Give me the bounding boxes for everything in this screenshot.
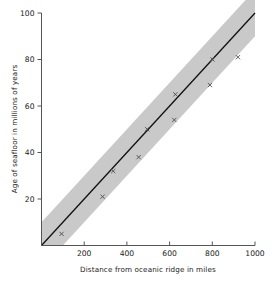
x-tick-label: 200 <box>77 249 92 258</box>
y-tick-label: 100 <box>20 9 35 18</box>
x-tick-label: 1000 <box>245 249 264 258</box>
confidence-band <box>42 0 256 269</box>
x-axis-tick-labels: 2004006008001000 <box>77 249 265 258</box>
y-axis-title: Age of seafloor in millions of years <box>10 65 19 194</box>
x-axis-ticks <box>84 242 255 246</box>
data-point <box>236 55 240 59</box>
y-axis-tick-labels: 20406080100 <box>20 9 35 204</box>
y-tick-label: 20 <box>25 195 35 204</box>
y-tick-label: 60 <box>25 102 35 111</box>
plot-area: 2004006008001000 20406080100 Distance fr… <box>0 0 277 282</box>
x-tick-label: 600 <box>162 249 177 258</box>
x-tick-label: 400 <box>120 249 135 258</box>
y-tick-label: 80 <box>25 55 35 64</box>
x-axis-title: Distance from oceanic ridge in miles <box>80 265 216 274</box>
y-tick-label: 40 <box>25 148 35 157</box>
y-axis-ticks <box>38 13 42 199</box>
best-fit-line <box>42 13 256 246</box>
seafloor-age-scatter-chart: 2004006008001000 20406080100 Distance fr… <box>0 0 277 282</box>
x-tick-label: 800 <box>205 249 220 258</box>
